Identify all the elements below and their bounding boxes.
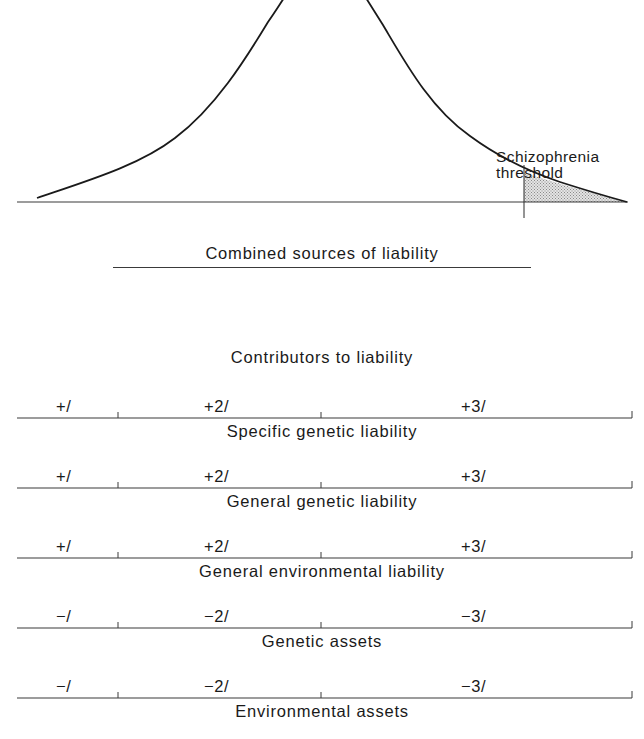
scale-label-1: +/ [56, 397, 71, 416]
scale-label-2: +2/ [204, 467, 229, 486]
scale-label-1: +/ [56, 467, 71, 486]
scale-row-genetic-assets: −/ −2/ −3/ Genetic assets [0, 606, 644, 656]
scale-label-3: +3/ [461, 397, 486, 416]
scale-label-1: −/ [56, 677, 71, 696]
scale-label-2: −2/ [204, 677, 229, 696]
threshold-label-line1: Schizophrenia [496, 149, 599, 165]
scale-label-1: −/ [56, 607, 71, 626]
contributors-title: Contributors to liability [0, 348, 644, 367]
row-title: General environmental liability [0, 562, 644, 581]
row-title: Environmental assets [0, 702, 644, 721]
liability-distribution-curve [0, 0, 644, 225]
scale-label-2: +2/ [204, 397, 229, 416]
scale-label-2: −2/ [204, 607, 229, 626]
scale-label-3: +3/ [461, 467, 486, 486]
row-title: Specific genetic liability [0, 422, 644, 441]
row-title: General genetic liability [0, 492, 644, 511]
combined-sources-title: Combined sources of liability [113, 244, 531, 263]
threshold-label: Schizophrenia threshold [496, 149, 599, 181]
scale-label-3: −3/ [461, 607, 486, 626]
scale-label-2: +2/ [204, 537, 229, 556]
scale-row-specific-genetic: +/ +2/ +3/ Specific genetic liability [0, 396, 644, 446]
scale-row-general-genetic: +/ +2/ +3/ General genetic liability [0, 466, 644, 516]
scale-row-environmental-assets: −/ −2/ −3/ Environmental assets [0, 676, 644, 726]
scale-label-3: −3/ [461, 677, 486, 696]
combined-sources-rule [113, 267, 531, 268]
threshold-label-line2: threshold [496, 165, 599, 181]
row-title: Genetic assets [0, 632, 644, 651]
scale-label-3: +3/ [461, 537, 486, 556]
scale-label-1: +/ [56, 537, 71, 556]
scale-row-general-environmental: +/ +2/ +3/ General environmental liabili… [0, 536, 644, 586]
